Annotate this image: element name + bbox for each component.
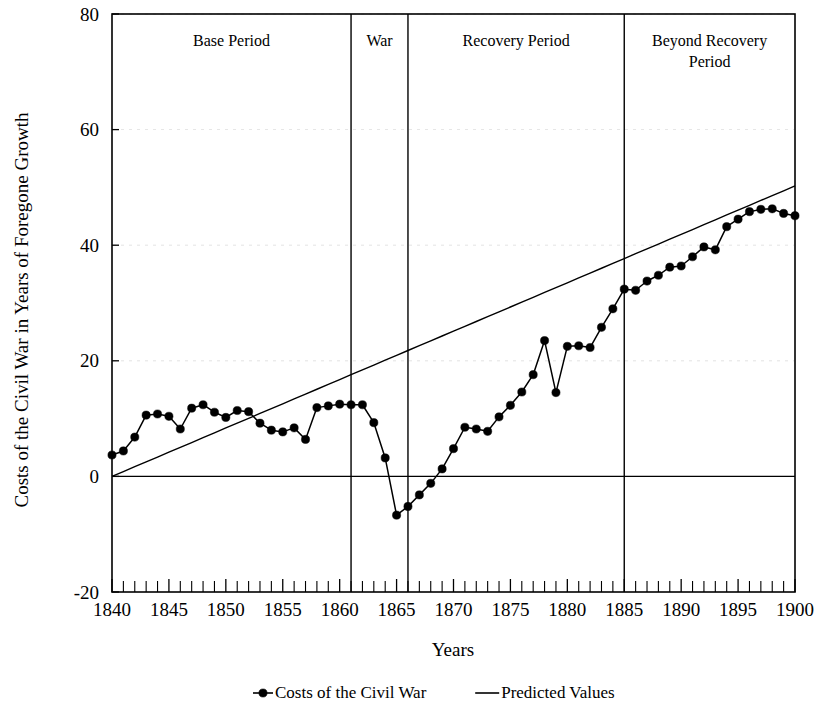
data-point bbox=[233, 406, 241, 414]
data-point bbox=[347, 401, 355, 409]
data-point bbox=[267, 426, 275, 434]
data-point bbox=[654, 271, 662, 279]
data-point bbox=[472, 425, 480, 433]
data-point bbox=[768, 205, 776, 213]
data-point bbox=[449, 445, 457, 453]
y-tick-label: 0 bbox=[90, 466, 100, 487]
data-point bbox=[210, 408, 218, 416]
data-point bbox=[723, 223, 731, 231]
x-tick-label: 1865 bbox=[378, 599, 416, 620]
series-predicted-values bbox=[112, 186, 795, 476]
y-axis-tick-labels: -20020406080 bbox=[74, 4, 99, 603]
x-tick-label: 1860 bbox=[321, 599, 359, 620]
data-point bbox=[142, 411, 150, 419]
plot-frame bbox=[112, 14, 795, 592]
x-axis-title: Years bbox=[432, 639, 474, 660]
data-point bbox=[153, 410, 161, 418]
chart-legend: Costs of the Civil WarPredicted Values bbox=[253, 683, 615, 702]
data-point bbox=[688, 253, 696, 261]
data-point bbox=[620, 285, 628, 293]
x-tick-label: 1885 bbox=[605, 599, 643, 620]
legend-label: Costs of the Civil War bbox=[275, 683, 427, 702]
data-point bbox=[461, 423, 469, 431]
y-axis-title: Costs of the Civil War in Years of Foreg… bbox=[11, 112, 32, 507]
data-point bbox=[495, 413, 503, 421]
x-tick-label: 1900 bbox=[776, 599, 814, 620]
period-band-label: Beyond Recovery bbox=[652, 32, 767, 50]
chart-figure: -20020406080 184018451850185518601865187… bbox=[0, 0, 824, 724]
data-point bbox=[222, 413, 230, 421]
data-point bbox=[666, 263, 674, 271]
data-point bbox=[552, 388, 560, 396]
data-point bbox=[780, 209, 788, 217]
chart-canvas: -20020406080 184018451850185518601865187… bbox=[0, 0, 824, 724]
x-tick-label: 1850 bbox=[207, 599, 245, 620]
y-tick-label: 40 bbox=[80, 235, 99, 256]
data-point bbox=[677, 262, 685, 270]
x-tick-label: 1845 bbox=[150, 599, 188, 620]
x-tick-label: 1895 bbox=[719, 599, 757, 620]
data-point bbox=[609, 305, 617, 313]
x-axis-tick-labels: 1840184518501855186018651870187518801885… bbox=[93, 599, 814, 620]
data-point bbox=[290, 424, 298, 432]
data-point bbox=[176, 425, 184, 433]
data-point bbox=[279, 428, 287, 436]
x-tick-label: 1890 bbox=[662, 599, 700, 620]
series-costs-of-the-civil-war bbox=[108, 205, 799, 520]
data-point bbox=[586, 343, 594, 351]
y-tick-label: 20 bbox=[80, 350, 99, 371]
data-point bbox=[757, 205, 765, 213]
x-tick-label: 1870 bbox=[435, 599, 473, 620]
x-tick-label: 1840 bbox=[93, 599, 131, 620]
x-axis-ticks bbox=[112, 579, 795, 592]
x-tick-label: 1855 bbox=[264, 599, 302, 620]
data-point bbox=[529, 371, 537, 379]
data-point bbox=[188, 404, 196, 412]
data-point bbox=[108, 451, 116, 459]
legend-label: Predicted Values bbox=[501, 683, 614, 702]
data-point bbox=[518, 388, 526, 396]
data-point bbox=[575, 342, 583, 350]
data-point bbox=[392, 511, 400, 519]
data-point bbox=[427, 479, 435, 487]
data-point bbox=[404, 502, 412, 510]
data-point bbox=[381, 454, 389, 462]
data-point bbox=[256, 419, 264, 427]
x-tick-label: 1880 bbox=[548, 599, 586, 620]
data-point bbox=[131, 433, 139, 441]
data-point bbox=[632, 286, 640, 294]
data-point bbox=[597, 323, 605, 331]
data-point bbox=[415, 491, 423, 499]
data-point bbox=[745, 208, 753, 216]
data-point bbox=[438, 465, 446, 473]
data-point bbox=[484, 427, 492, 435]
period-band-label: Recovery Period bbox=[463, 32, 570, 50]
y-tick-label: 80 bbox=[80, 4, 99, 25]
data-point bbox=[563, 342, 571, 350]
data-point bbox=[324, 402, 332, 410]
data-point bbox=[358, 401, 366, 409]
data-point bbox=[199, 401, 207, 409]
period-band-label: War bbox=[366, 32, 393, 49]
data-point bbox=[734, 215, 742, 223]
period-band-labels: Base PeriodWarRecovery PeriodBeyond Reco… bbox=[193, 32, 767, 70]
period-dividers bbox=[351, 14, 624, 592]
data-point bbox=[643, 277, 651, 285]
data-point bbox=[370, 419, 378, 427]
period-band-label: Base Period bbox=[193, 32, 270, 49]
y-tick-label: 60 bbox=[80, 119, 99, 140]
period-band-label: Period bbox=[689, 53, 731, 70]
data-point bbox=[791, 212, 799, 220]
gridlines bbox=[113, 14, 794, 476]
data-point bbox=[506, 401, 514, 409]
data-point bbox=[336, 400, 344, 408]
legend-marker-dot bbox=[259, 689, 267, 697]
data-point bbox=[700, 243, 708, 251]
data-point bbox=[165, 412, 173, 420]
y-axis-ticks bbox=[112, 14, 119, 592]
data-point bbox=[540, 336, 548, 344]
data-point bbox=[313, 404, 321, 412]
data-point bbox=[711, 246, 719, 254]
x-tick-label: 1875 bbox=[491, 599, 529, 620]
data-point bbox=[245, 408, 253, 416]
